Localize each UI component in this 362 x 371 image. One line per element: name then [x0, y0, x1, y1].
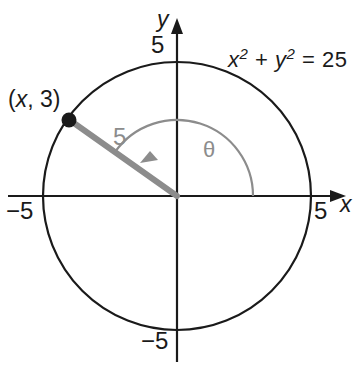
y-axis-arrowhead [171, 18, 183, 34]
y-axis-name-label: y [157, 8, 169, 31]
point-open-paren: ( [8, 86, 16, 112]
circle-equation-label: x2 + y2 = 25 [228, 46, 347, 71]
equation-exponent-x: 2 [240, 45, 249, 62]
equation-var-y: y [275, 47, 287, 72]
tick-label-x-negative-5: −5 [6, 199, 33, 223]
equation-equals-sign: = [302, 47, 315, 72]
point-comma: , [27, 86, 40, 112]
x-axis-name-label: x [340, 193, 352, 216]
tick-label-y-positive-5: 5 [151, 33, 164, 57]
point-y-value: 3 [40, 86, 53, 112]
tick-label-y-negative-5: −5 [141, 329, 168, 353]
circle-diagram: x2 + y2 = 25 (x, 3) 5 θ y x 5 −5 5 −5 [0, 0, 362, 371]
point-x-value: x [16, 86, 28, 112]
terminal-point-marker [62, 113, 77, 128]
equation-value: 25 [322, 47, 347, 72]
equation-plus-sign: + [255, 47, 268, 72]
terminal-point-label: (x, 3) [8, 88, 60, 111]
equation-var-x: x [228, 47, 240, 72]
angle-arc-arrowhead [140, 151, 158, 163]
point-close-paren: ) [53, 86, 61, 112]
tick-label-x-positive-5: 5 [314, 199, 327, 223]
angle-arc [115, 120, 253, 196]
radius-length-label: 5 [113, 125, 126, 149]
equation-exponent-y: 2 [286, 45, 295, 62]
theta-angle-label: θ [203, 139, 215, 161]
